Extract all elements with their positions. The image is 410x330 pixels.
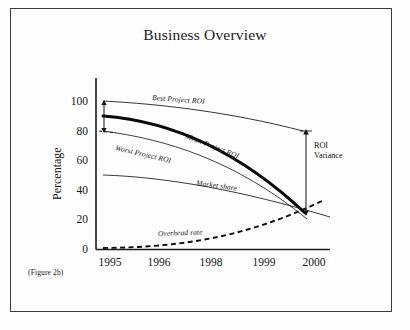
series-line-mean-project-roi <box>103 116 305 213</box>
chart-screenshot: Business Overview 100 80 60 40 20 0 Perc… <box>0 0 410 330</box>
series-line-overhead-rate <box>103 201 322 248</box>
x-axis-tick-labels: 1995 1996 1998 1999 2000 <box>99 256 326 268</box>
axis-lines <box>96 78 330 250</box>
y-tick-40: 40 <box>77 184 89 196</box>
y-tick-60: 60 <box>77 154 89 166</box>
y-tick-100: 100 <box>71 95 89 107</box>
figure-caption: (Figure 2b) <box>28 268 63 277</box>
x-tick-1995: 1995 <box>99 256 122 268</box>
y-tick-80: 80 <box>77 125 89 137</box>
chart-plot-area: 100 80 60 40 20 0 Percentage 1995 1996 1… <box>0 0 410 330</box>
roi-variance-label-line2: Variance <box>314 151 343 160</box>
y-axis-title: Percentage <box>50 147 64 200</box>
series-label-mean-project-roi: Mean Project ROI <box>183 131 240 160</box>
series-label-worst-project-roi: Worst Project ROI <box>115 143 173 165</box>
roi-variance-label-line1: ROI <box>314 141 328 150</box>
y-tick-20: 20 <box>77 213 89 225</box>
annotation-roi-variance: ROI Variance <box>300 129 343 216</box>
series-label-overhead-rate: Overhead rate <box>158 227 204 238</box>
x-tick-1999: 1999 <box>253 256 276 268</box>
x-tick-1996: 1996 <box>148 256 171 268</box>
x-tick-1998: 1998 <box>200 256 223 268</box>
series-label-best-project-roi: Best Project ROI <box>152 93 205 106</box>
x-tick-2000: 2000 <box>303 256 326 268</box>
roi-variance-arrowhead-top <box>303 129 309 134</box>
series-label-market-share: Market share <box>195 178 239 193</box>
y-tick-0: 0 <box>82 243 88 255</box>
y-axis-tick-labels: 100 80 60 40 20 0 <box>71 95 89 255</box>
